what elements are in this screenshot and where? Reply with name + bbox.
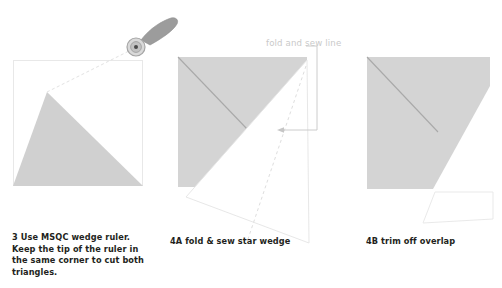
caption-step-3: 3 Use MSQC wedge ruler. Keep the tip of … [12,232,162,279]
fold-and-sew-line-label: fold and sew line [266,38,341,48]
offcut-outline-shape [423,192,493,223]
caption-step-4a: 4A fold & sew star wedge [170,236,335,248]
cutter-hub [134,45,138,49]
caption-step-4b: 4B trim off overlap [366,236,496,248]
